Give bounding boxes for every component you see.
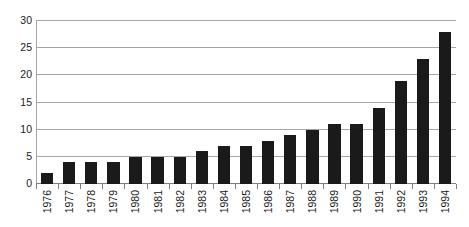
x-axis-tick xyxy=(279,184,280,189)
bar-slot xyxy=(58,20,80,184)
bar-1993[interactable] xyxy=(417,59,429,184)
y-axis-tick-label: 10 xyxy=(2,123,32,134)
x-axis-tick xyxy=(235,184,236,189)
x-axis-label-1992: 1992 xyxy=(396,190,407,213)
x-axis-label-1987: 1987 xyxy=(285,190,296,213)
y-axis-tick-label: 20 xyxy=(2,69,32,80)
x-axis-tick xyxy=(102,184,103,189)
y-axis-tick-labels: 051015202530 xyxy=(0,0,32,227)
y-axis-tick-label: 15 xyxy=(2,96,32,107)
x-axis-tick xyxy=(169,184,170,189)
x-axis-tick xyxy=(58,184,59,189)
bar-1983[interactable] xyxy=(196,151,208,184)
x-axis-ticks xyxy=(36,184,456,189)
x-axis-tick xyxy=(456,184,457,189)
x-label-slot: 1994 xyxy=(434,190,456,227)
y-axis-tick-label: 30 xyxy=(2,15,32,26)
x-label-slot: 1993 xyxy=(412,190,434,227)
y-axis-tick-label: 25 xyxy=(2,42,32,53)
y-axis-tick-label: 0 xyxy=(2,178,32,189)
bar-1981[interactable] xyxy=(151,157,163,184)
x-label-slot: 1981 xyxy=(147,190,169,227)
x-axis-label-1994: 1994 xyxy=(440,190,451,213)
bar-1976[interactable] xyxy=(41,173,53,184)
bar-1986[interactable] xyxy=(262,141,274,184)
bar-slot xyxy=(124,20,146,184)
x-label-slot: 1992 xyxy=(390,190,412,227)
bar-1988[interactable] xyxy=(306,130,318,184)
x-axis-tick xyxy=(323,184,324,189)
x-axis-tick xyxy=(124,184,125,189)
x-label-slot: 1990 xyxy=(346,190,368,227)
bar-1990[interactable] xyxy=(350,124,362,184)
x-label-slot: 1978 xyxy=(80,190,102,227)
x-axis-label-1989: 1989 xyxy=(329,190,340,213)
bar-slot xyxy=(147,20,169,184)
x-axis-tick xyxy=(434,184,435,189)
bar-1978[interactable] xyxy=(85,162,97,184)
bar-slot xyxy=(257,20,279,184)
x-axis-label-1983: 1983 xyxy=(197,190,208,213)
x-axis-label-1988: 1988 xyxy=(307,190,318,213)
x-axis-tick xyxy=(213,184,214,189)
bar-1982[interactable] xyxy=(174,157,186,184)
bar-slot xyxy=(279,20,301,184)
x-axis-label-1991: 1991 xyxy=(373,190,384,213)
x-axis-tick xyxy=(345,184,346,189)
bar-slot xyxy=(301,20,323,184)
bar-slot xyxy=(235,20,257,184)
x-label-slot: 1986 xyxy=(257,190,279,227)
x-axis-label-1993: 1993 xyxy=(418,190,429,213)
x-label-slot: 1982 xyxy=(169,190,191,227)
x-label-slot: 1984 xyxy=(213,190,235,227)
bar-1984[interactable] xyxy=(218,146,230,184)
x-label-slot: 1979 xyxy=(102,190,124,227)
bar-slot xyxy=(434,20,456,184)
bar-1977[interactable] xyxy=(63,162,75,184)
x-axis-label-1984: 1984 xyxy=(219,190,230,213)
x-axis-tick xyxy=(390,184,391,189)
x-axis-tick xyxy=(147,184,148,189)
bar-slot xyxy=(102,20,124,184)
bar-slot xyxy=(36,20,58,184)
x-axis-label-1985: 1985 xyxy=(241,190,252,213)
bar-1985[interactable] xyxy=(240,146,252,184)
bar-1991[interactable] xyxy=(373,108,385,184)
bar-slot xyxy=(368,20,390,184)
x-axis-label-1981: 1981 xyxy=(152,190,163,213)
x-label-slot: 1980 xyxy=(124,190,146,227)
x-label-slot: 1977 xyxy=(58,190,80,227)
bar-1987[interactable] xyxy=(284,135,296,184)
x-label-slot: 1991 xyxy=(368,190,390,227)
x-axis-label-1977: 1977 xyxy=(64,190,75,213)
bar-1989[interactable] xyxy=(328,124,340,184)
bars-group xyxy=(36,20,456,184)
x-axis-tick xyxy=(368,184,369,189)
x-axis-label-1980: 1980 xyxy=(130,190,141,213)
bar-1980[interactable] xyxy=(129,157,141,184)
x-label-slot: 1989 xyxy=(323,190,345,227)
x-label-slot: 1976 xyxy=(36,190,58,227)
x-axis-tick xyxy=(412,184,413,189)
bar-slot xyxy=(169,20,191,184)
y-axis-tick-label: 5 xyxy=(2,151,32,162)
bar-slot xyxy=(346,20,368,184)
x-axis-label-1986: 1986 xyxy=(263,190,274,213)
x-axis-tick xyxy=(191,184,192,189)
x-axis-tick xyxy=(80,184,81,189)
x-axis-category-labels: 1976197719781979198019811982198319841985… xyxy=(36,190,456,227)
bar-1994[interactable] xyxy=(439,32,451,184)
x-label-slot: 1985 xyxy=(235,190,257,227)
bar-1979[interactable] xyxy=(107,162,119,184)
bar-slot xyxy=(213,20,235,184)
bar-1992[interactable] xyxy=(395,81,407,184)
x-axis-label-1976: 1976 xyxy=(42,190,53,213)
bar-slot xyxy=(191,20,213,184)
x-axis-label-1990: 1990 xyxy=(351,190,362,213)
bar-chart-figure: 051015202530 197619771978197919801981198… xyxy=(0,0,469,227)
x-axis-tick xyxy=(257,184,258,189)
x-axis-label-1982: 1982 xyxy=(174,190,185,213)
x-axis-tick xyxy=(36,184,37,189)
bar-slot xyxy=(412,20,434,184)
bar-slot xyxy=(80,20,102,184)
